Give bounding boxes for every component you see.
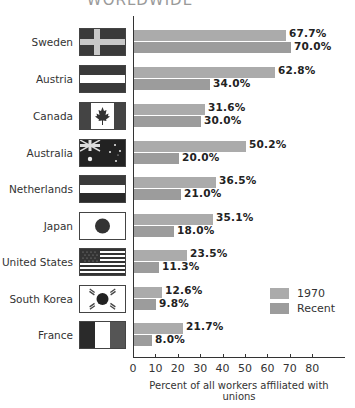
x-tick-label: 50 <box>233 362 257 375</box>
chart-row-france: France21.7%8.0% <box>0 321 355 351</box>
x-tick-label: 10 <box>143 362 167 375</box>
x-tick-mark <box>200 354 201 358</box>
country-label: Netherlands <box>9 183 73 195</box>
legend: 1970 Recent <box>270 286 335 316</box>
x-tick-label: 20 <box>166 362 190 375</box>
netherlands-flag-icon <box>79 175 126 203</box>
value-label-recent: 18.0% <box>177 224 214 236</box>
legend-item-1970: 1970 <box>270 286 335 300</box>
bar-recent <box>134 42 291 53</box>
value-label-1970: 35.1% <box>216 211 253 223</box>
bar-1970 <box>134 67 275 78</box>
x-tick-label: 0 <box>121 362 145 375</box>
legend-swatch-recent <box>270 303 289 314</box>
australia-flag-icon <box>79 139 126 167</box>
x-tick-mark <box>267 354 268 358</box>
bar-recent <box>134 335 152 346</box>
chart-row-austria: Austria62.8%34.0% <box>0 65 355 95</box>
country-label: United States <box>2 256 73 268</box>
canada-flag-icon <box>79 102 126 130</box>
value-label-recent: 20.0% <box>182 151 219 163</box>
value-label-recent: 21.0% <box>184 187 221 199</box>
bar-recent <box>134 189 181 200</box>
value-label-recent: 30.0% <box>204 114 241 126</box>
sweden-flag-icon <box>79 28 126 56</box>
south-korea-flag-icon <box>79 285 126 313</box>
x-tick-mark <box>133 354 134 358</box>
value-label-recent: 11.3% <box>162 260 199 272</box>
bar-recent <box>134 79 210 90</box>
x-tick-mark <box>245 354 246 358</box>
y-axis-line <box>133 16 134 358</box>
value-label-1970: 67.7% <box>289 27 326 39</box>
chart-row-australia: Australia50.2%20.0% <box>0 139 355 169</box>
bar-recent <box>134 226 174 237</box>
united-states-flag-icon <box>79 248 126 276</box>
japan-flag-icon <box>79 212 126 240</box>
x-tick-label: 80 <box>300 362 324 375</box>
country-label: Japan <box>44 220 73 232</box>
value-label-1970: 21.7% <box>186 320 223 332</box>
x-tick-label: 60 <box>255 362 279 375</box>
x-tick-label: 30 <box>188 362 212 375</box>
chart-row-canada: Canada31.6%30.0% <box>0 102 355 132</box>
chart-row-sweden: Sweden67.7%70.0% <box>0 28 355 58</box>
value-label-recent: 8.0% <box>155 333 185 345</box>
chart-row-netherlands: Netherlands36.5%21.0% <box>0 175 355 205</box>
bar-recent <box>134 262 159 273</box>
value-label-recent: 70.0% <box>294 40 331 52</box>
value-label-recent: 34.0% <box>213 77 250 89</box>
legend-label: Recent <box>297 302 335 315</box>
value-label-1970: 31.6% <box>208 101 245 113</box>
country-label: Austria <box>36 73 73 85</box>
bar-1970 <box>134 287 162 298</box>
bar-1970 <box>134 104 205 115</box>
country-label: Australia <box>27 147 73 159</box>
chart-row-united-states: United States23.5%11.3% <box>0 248 355 278</box>
country-label: Canada <box>33 110 73 122</box>
france-flag-icon <box>79 321 126 349</box>
x-tick-mark <box>290 354 291 358</box>
x-axis-line <box>133 357 345 358</box>
legend-swatch-1970 <box>270 288 289 299</box>
bar-recent <box>134 116 201 127</box>
country-label: South Korea <box>9 293 73 305</box>
value-label-1970: 23.5% <box>190 247 227 259</box>
value-label-1970: 36.5% <box>219 174 256 186</box>
bar-recent <box>134 299 156 310</box>
x-tick-label: 40 <box>211 362 235 375</box>
country-label: Sweden <box>32 36 74 48</box>
value-label-1970: 50.2% <box>249 138 286 150</box>
x-tick-label: 70 <box>278 362 302 375</box>
x-axis-label: Percent of all workers affiliated with u… <box>133 380 345 402</box>
x-tick-mark <box>223 354 224 358</box>
country-label: France <box>38 329 73 341</box>
legend-label: 1970 <box>297 287 325 300</box>
x-tick-mark <box>155 354 156 358</box>
bar-recent <box>134 153 179 164</box>
bar-1970 <box>134 30 286 41</box>
x-tick-mark <box>178 354 179 358</box>
value-label-1970: 62.8% <box>278 64 315 76</box>
x-tick-mark <box>312 354 313 358</box>
legend-item-recent: Recent <box>270 301 335 315</box>
chart-row-japan: Japan35.1%18.0% <box>0 212 355 242</box>
value-label-1970: 12.6% <box>165 284 202 296</box>
value-label-recent: 9.8% <box>159 297 189 309</box>
chart-title: WORLDWIDE <box>0 0 280 9</box>
austria-flag-icon <box>79 65 126 93</box>
